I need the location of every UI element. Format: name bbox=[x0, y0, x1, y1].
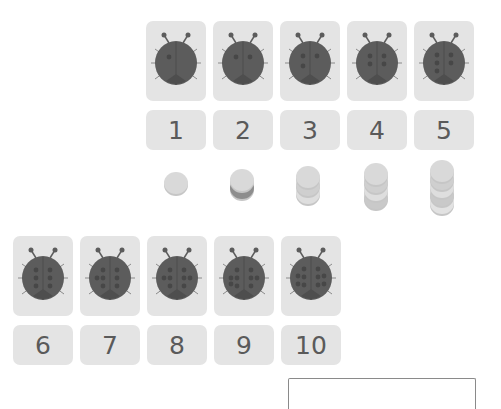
number-card-5[interactable]: 5 bbox=[414, 110, 474, 150]
ladybug-card-3[interactable] bbox=[280, 21, 340, 101]
counter-disc-icon bbox=[364, 163, 388, 185]
number-label: 10 bbox=[295, 331, 327, 360]
ladybug-card-2[interactable] bbox=[213, 21, 273, 101]
number-label: 6 bbox=[35, 331, 51, 360]
ladybug-card-6[interactable] bbox=[13, 236, 73, 316]
number-card-8[interactable]: 8 bbox=[147, 325, 207, 365]
number-label: 2 bbox=[235, 116, 251, 145]
counter-disc-icon bbox=[430, 160, 454, 182]
counter-disc-icon bbox=[164, 172, 188, 194]
counter-stack-4[interactable] bbox=[364, 172, 390, 226]
ladybug-icon bbox=[284, 244, 338, 308]
number-label: 3 bbox=[302, 116, 318, 145]
ladybug-icon bbox=[149, 29, 203, 93]
number-label: 4 bbox=[369, 116, 385, 145]
counter-stack-5[interactable] bbox=[430, 172, 456, 234]
counter-disc-icon bbox=[296, 166, 320, 188]
number-label: 7 bbox=[102, 331, 118, 360]
number-card-9[interactable]: 9 bbox=[214, 325, 274, 365]
number-card-4[interactable]: 4 bbox=[347, 110, 407, 150]
ladybug-card-1[interactable] bbox=[146, 21, 206, 101]
counter-disc-icon bbox=[230, 169, 254, 191]
number-label: 9 bbox=[236, 331, 252, 360]
ladybug-icon bbox=[216, 29, 270, 93]
number-label: 8 bbox=[169, 331, 185, 360]
number-card-1[interactable]: 1 bbox=[146, 110, 206, 150]
ladybug-icon bbox=[16, 244, 70, 308]
number-label: 5 bbox=[436, 116, 452, 145]
ladybug-card-8[interactable] bbox=[147, 236, 207, 316]
number-card-6[interactable]: 6 bbox=[13, 325, 73, 365]
ladybug-icon bbox=[283, 29, 337, 93]
ladybug-card-9[interactable] bbox=[214, 236, 274, 316]
number-label: 1 bbox=[168, 116, 184, 145]
ladybug-card-4[interactable] bbox=[347, 21, 407, 101]
ladybug-icon bbox=[350, 29, 404, 93]
counter-stack-2[interactable] bbox=[230, 172, 256, 210]
ladybug-card-7[interactable] bbox=[80, 236, 140, 316]
counter-stack-3[interactable] bbox=[296, 172, 322, 218]
ladybug-icon bbox=[217, 244, 271, 308]
ladybug-icon bbox=[417, 29, 471, 93]
counter-stack-1[interactable] bbox=[164, 172, 190, 202]
ladybug-card-10[interactable] bbox=[281, 236, 341, 316]
number-card-7[interactable]: 7 bbox=[80, 325, 140, 365]
ladybug-icon bbox=[83, 244, 137, 308]
number-card-10[interactable]: 10 bbox=[281, 325, 341, 365]
number-card-3[interactable]: 3 bbox=[280, 110, 340, 150]
ladybug-icon bbox=[150, 244, 204, 308]
number-card-2[interactable]: 2 bbox=[213, 110, 273, 150]
ladybug-card-5[interactable] bbox=[414, 21, 474, 101]
answer-box[interactable] bbox=[288, 378, 476, 409]
